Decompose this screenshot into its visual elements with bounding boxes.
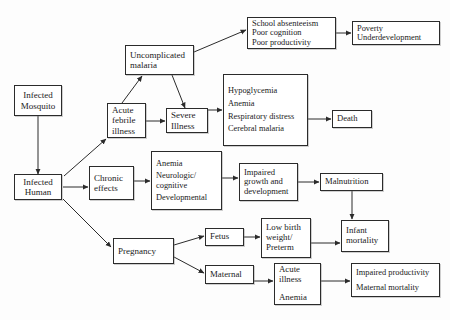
node-line: Severe <box>171 110 196 120</box>
node-line: Preterm <box>266 243 294 253</box>
node-maternal[interactable]: Maternal <box>205 265 254 284</box>
node-line: Infected <box>23 177 52 187</box>
edge-uncomplicated-to-school-absenteeism <box>194 30 246 52</box>
node-poverty-underdevelopment[interactable]: Poverty Underdevelopment <box>352 21 440 45</box>
node-line: Anemia <box>228 99 255 108</box>
edge-pregnancy-to-maternal <box>174 257 204 273</box>
node-line: Illness <box>171 121 195 131</box>
node-line: mortality <box>346 236 378 246</box>
node-line: Poor cognition <box>252 28 302 37</box>
node-line: Infected <box>23 90 52 100</box>
node-line: febrile <box>112 115 135 125</box>
node-line: Fetus <box>210 232 229 242</box>
node-line: Acute <box>112 105 134 115</box>
node-acute-febrile-illness[interactable]: Acute febrile illness <box>107 103 146 138</box>
node-pregnancy[interactable]: Pregnancy <box>113 238 174 264</box>
node-line: malaria <box>130 60 157 70</box>
node-line: Underdevelopment <box>357 33 421 42</box>
edge-uncomplicated-to-severe-illness <box>172 75 185 108</box>
node-line: development <box>244 187 288 197</box>
edge-pregnancy-to-fetus <box>174 236 204 245</box>
diagram-canvas: Infected Mosquito Infected Human Acute f… <box>0 0 450 320</box>
node-fetus[interactable]: Fetus <box>205 228 244 246</box>
node-low-birth-weight[interactable]: Low birth weight/ Preterm <box>261 218 311 258</box>
node-line: effects <box>94 183 118 193</box>
node-line: Death <box>337 114 358 124</box>
node-impaired-growth[interactable]: Impaired growth and development <box>239 163 298 201</box>
edge-acute-febrile-to-uncomplicated <box>122 76 142 103</box>
node-line: cognitive <box>156 181 187 190</box>
node-line: Uncomplicated <box>130 50 185 60</box>
node-line: Respiratory distress <box>228 112 294 121</box>
node-uncomplicated-malaria[interactable]: Uncomplicated malaria <box>125 45 194 75</box>
node-severe-symptoms[interactable]: Hypoglycemia Anemia Respiratory distress… <box>223 74 308 146</box>
node-line: Anemia <box>156 159 183 168</box>
node-line: Anemia <box>279 293 307 303</box>
node-line: Pregnancy <box>118 246 156 256</box>
node-infected-human[interactable]: Infected Human <box>14 174 62 200</box>
node-chronic-symptoms[interactable]: Anemia Neurologic/ cognitive Development… <box>151 151 222 210</box>
node-malnutrition[interactable]: Malnutrition <box>320 173 383 191</box>
node-school-absenteeism[interactable]: School absenteeism Poor cognition Poor p… <box>247 17 336 49</box>
node-infant-mortality[interactable]: Infant mortality <box>341 220 389 252</box>
node-line: Hypoglycemia <box>228 86 277 95</box>
node-maternal-outcomes[interactable]: Impaired productivity Maternal mortality <box>351 263 440 297</box>
node-severe-illness[interactable]: Severe Illness <box>166 108 208 133</box>
node-line: Malnutrition <box>325 177 368 187</box>
node-line: Maternal <box>210 270 242 280</box>
node-line: Human <box>25 187 52 197</box>
node-line: School absenteeism <box>252 19 318 28</box>
node-chronic-effects[interactable]: Chronic effects <box>89 166 134 200</box>
edge-human-to-pregnancy <box>63 199 111 247</box>
node-line: Poverty <box>357 24 383 33</box>
node-infected-mosquito[interactable]: Infected Mosquito <box>14 85 62 116</box>
node-line: Developmental <box>156 193 207 202</box>
node-line: Neurologic/ <box>156 171 196 180</box>
node-line: illness <box>112 126 135 136</box>
node-line: Cerebral malaria <box>228 124 284 133</box>
node-line: illness <box>279 275 301 285</box>
node-line: Maternal mortality <box>356 283 419 292</box>
node-line: Chronic <box>94 173 123 183</box>
node-line: Poor productivity <box>252 38 311 47</box>
node-acute-illness-anemia[interactable]: Acute illness Anemia <box>274 263 321 305</box>
node-line: Impaired productivity <box>356 268 429 277</box>
node-line: Mosquito <box>21 101 56 111</box>
node-death[interactable]: Death <box>332 110 372 128</box>
